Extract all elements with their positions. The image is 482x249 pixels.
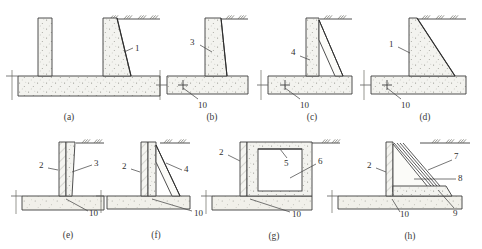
label-3: 3 (94, 158, 99, 168)
caption-h: (h) (404, 231, 415, 242)
label-10: 10 (300, 100, 310, 110)
sheet-pile-panel (59, 142, 66, 196)
soil-base (338, 196, 462, 209)
sheet-pile-panel (386, 142, 393, 196)
label-10: 10 (292, 209, 302, 219)
label-10: 10 (194, 208, 204, 218)
label-8: 8 (458, 173, 463, 183)
label-7: 7 (454, 151, 459, 161)
caption-f: (f) (151, 230, 161, 241)
figure-sheet: 1 (a) 10 3 (b) (0, 0, 482, 249)
label-10: 10 (400, 209, 410, 219)
caption-b: (b) (206, 112, 217, 123)
label-2: 2 (39, 160, 44, 170)
vertical-stem (306, 18, 319, 76)
label-2: 2 (219, 147, 224, 157)
cast-in-place-stem (148, 142, 156, 196)
caption-e: (e) (63, 230, 74, 241)
cell-void (258, 149, 302, 191)
label-9: 9 (453, 208, 458, 218)
label-4: 4 (184, 164, 189, 174)
label-4: 4 (291, 47, 296, 57)
retaining-wall-figure: 1 (a) 10 3 (b) (0, 0, 482, 249)
caption-g: (g) (268, 231, 279, 242)
label-1: 1 (135, 43, 140, 53)
caption-a: (a) (64, 112, 75, 123)
caption-d: (d) (419, 112, 430, 123)
caption-c: (c) (307, 112, 318, 123)
label-10: 10 (198, 100, 208, 110)
label-1: 1 (389, 39, 394, 49)
sheet-pile-panel (141, 142, 148, 196)
label-10: 10 (89, 208, 99, 218)
label-6: 6 (318, 156, 323, 166)
label-2: 2 (122, 161, 127, 171)
label-3: 3 (190, 37, 195, 47)
label-5: 5 (284, 158, 289, 168)
label-2: 2 (367, 160, 372, 170)
foundation-slab (18, 76, 160, 96)
left-stem (38, 18, 52, 76)
sheet-pile-panel (240, 142, 247, 196)
label-10: 10 (401, 100, 411, 110)
toe-capping-block (393, 186, 452, 196)
